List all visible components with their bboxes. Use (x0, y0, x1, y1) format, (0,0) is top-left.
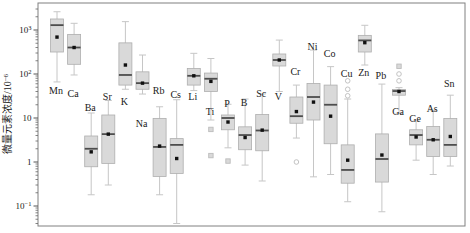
mean-marker (107, 132, 110, 135)
trace-element-boxplot-figure: 10310210110−1微量元素浓度/10−6MnCaBaSrKNaRbCsL… (0, 0, 470, 233)
mean-marker (363, 41, 366, 44)
element-label-Ba: Ba (85, 102, 97, 113)
mean-marker (90, 150, 93, 153)
outlier-square (397, 64, 401, 68)
element-label-Sr: Sr (103, 91, 113, 102)
mean-marker (261, 128, 264, 131)
mean-marker (295, 110, 298, 113)
element-label-Rb: Rb (153, 85, 165, 96)
iqr-box (341, 145, 354, 183)
element-label-Ni: Ni (308, 41, 318, 52)
element-label-Cu: Cu (341, 68, 353, 79)
mean-marker (55, 35, 58, 38)
mean-marker (72, 46, 75, 49)
mean-marker (346, 158, 349, 161)
element-label-Cr: Cr (290, 66, 301, 77)
iqr-box (324, 85, 337, 144)
y-tick-label: 10 (23, 113, 33, 123)
element-label-Sn: Sn (444, 78, 455, 89)
element-label-B: B (241, 97, 248, 108)
element-label-Ca: Ca (68, 88, 80, 99)
mean-marker (226, 120, 229, 123)
boxplot-chart: 10310210110−1微量元素浓度/10−6MnCaBaSrKNaRbCsL… (0, 0, 470, 233)
iqr-box (256, 115, 269, 151)
element-label-Li: Li (188, 91, 197, 102)
mean-marker (192, 74, 195, 77)
element-label-V: V (275, 91, 283, 102)
mean-marker (312, 100, 315, 103)
iqr-box (375, 134, 388, 182)
mean-marker (175, 157, 178, 160)
element-label-Ge: Ge (409, 113, 421, 124)
mean-marker (449, 135, 452, 138)
mean-marker (278, 58, 281, 61)
element-label-P: P (224, 98, 230, 109)
element-label-Ga: Ga (392, 106, 404, 117)
element-label-Cs: Cs (170, 89, 181, 100)
outlier-square (226, 159, 230, 163)
mean-marker (209, 80, 212, 83)
mean-marker (414, 135, 417, 138)
element-label-Ti: Ti (206, 106, 215, 117)
mean-marker (380, 153, 383, 156)
mean-marker (141, 81, 144, 84)
iqr-box (170, 139, 183, 174)
mean-marker (397, 90, 400, 93)
mean-marker (432, 138, 435, 141)
element-label-Na: Na (136, 118, 148, 129)
iqr-box (102, 115, 115, 163)
mean-marker (243, 136, 246, 139)
element-label-As: As (427, 103, 438, 114)
y-axis-title: 微量元素浓度/10−6 (1, 73, 13, 154)
iqr-box (427, 127, 440, 157)
box-group-Ca: Ca (68, 23, 81, 98)
outlier-square (209, 127, 213, 131)
element-label-Zn: Zn (358, 67, 369, 78)
element-label-Sc: Sc (256, 88, 267, 99)
element-label-Co: Co (324, 48, 336, 59)
element-label-K: K (121, 96, 129, 107)
iqr-box (68, 34, 81, 64)
mean-marker (124, 63, 127, 66)
y-tick-label: 1 (27, 157, 32, 167)
element-label-Mn: Mn (49, 85, 63, 96)
mean-marker (158, 144, 161, 147)
outlier-square (209, 153, 213, 157)
element-label-Pb: Pb (376, 70, 387, 81)
iqr-box (136, 72, 149, 89)
mean-marker (329, 114, 332, 117)
